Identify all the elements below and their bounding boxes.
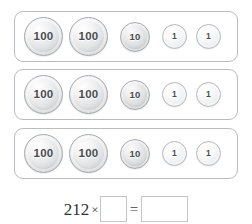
coin-value-label: 1: [206, 90, 211, 99]
coin-value-label: 100: [34, 31, 54, 43]
coin-value-label: 10: [130, 90, 141, 100]
multiplier-input[interactable]: [100, 196, 127, 222]
coin-hundred: 100: [24, 134, 63, 173]
multiplicand-label: 212: [64, 201, 90, 218]
coin-ten: 10: [120, 80, 150, 110]
coin-ten: 10: [120, 22, 150, 52]
coin-hundred: 100: [24, 75, 63, 114]
coin-value-label: 100: [34, 89, 54, 101]
equals-symbol: =: [130, 202, 138, 217]
coin-one: 1: [196, 24, 221, 49]
coin-value-label: 100: [34, 148, 54, 160]
coin-group-2: 100 100 10 1 1: [14, 69, 238, 120]
coin-value-label: 10: [130, 32, 141, 42]
coin-group-2-coins: 100 100 10 1 1: [15, 70, 237, 119]
coin-value-label: 100: [79, 31, 99, 43]
coin-hundred: 100: [24, 17, 63, 56]
coin-value-label: 100: [79, 89, 99, 101]
coin-value-label: 1: [206, 32, 211, 41]
multiplication-equation: 212 × =: [0, 194, 252, 224]
coin-ten: 10: [120, 139, 150, 169]
coin-one: 1: [196, 141, 221, 166]
coin-value-label: 1: [172, 149, 177, 158]
coin-value-label: 1: [172, 90, 177, 99]
multiply-symbol: ×: [91, 203, 98, 216]
coin-group-1: 100 100 10 1 1: [14, 11, 238, 62]
coin-value-label: 10: [130, 149, 141, 159]
coin-value-label: 100: [79, 148, 99, 160]
coin-hundred: 100: [69, 17, 108, 56]
product-input[interactable]: [141, 196, 188, 222]
coin-group-3: 100 100 10 1 1: [14, 128, 238, 179]
coin-value-label: 1: [172, 32, 177, 41]
coin-value-label: 1: [206, 149, 211, 158]
coin-hundred: 100: [69, 75, 108, 114]
coin-one: 1: [162, 82, 187, 107]
coin-group-1-coins: 100 100 10 1 1: [15, 12, 237, 61]
place-value-worksheet: 100 100 10 1 1 100 100 10: [0, 0, 252, 224]
coin-hundred: 100: [69, 134, 108, 173]
coin-group-3-coins: 100 100 10 1 1: [15, 129, 237, 178]
coin-one: 1: [162, 141, 187, 166]
coin-one: 1: [162, 24, 187, 49]
coin-one: 1: [196, 82, 221, 107]
